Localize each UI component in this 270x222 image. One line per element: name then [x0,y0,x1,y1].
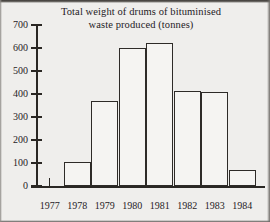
bar-1981 [146,43,173,186]
y-tick-label-300: 300 [2,112,28,122]
y-tick-label-400: 400 [2,89,28,99]
y-tick-300 [31,116,42,117]
y-tick-label-200: 200 [2,135,28,145]
bar-1979 [91,101,118,186]
chart-page: Total weight of drums of bituminised was… [0,0,270,222]
bar-1983 [201,92,228,186]
y-tick-700 [31,24,42,25]
y-tick-label-700: 700 [2,20,28,30]
bar-1982 [174,91,201,186]
y-tick-0 [31,185,42,186]
y-tick-600 [31,47,42,48]
y-tick-100 [31,162,42,163]
y-tick-label-0: 0 [2,181,28,191]
y-tick-500 [31,70,42,71]
bar-1978 [64,162,91,186]
bar-1984 [229,170,256,186]
y-tick-label-500: 500 [2,66,28,76]
y-tick-400 [31,93,42,94]
bar-1980 [119,48,146,186]
x-tick-label-1984: 1984 [226,200,258,211]
x-axis-line [31,186,265,188]
x-tick-1977 [49,178,50,187]
plot-area: 0100200300400500600700 19771978197919801… [0,0,270,222]
y-tick-label-100: 100 [2,158,28,168]
y-tick-200 [31,139,42,140]
y-tick-label-600: 600 [2,43,28,53]
